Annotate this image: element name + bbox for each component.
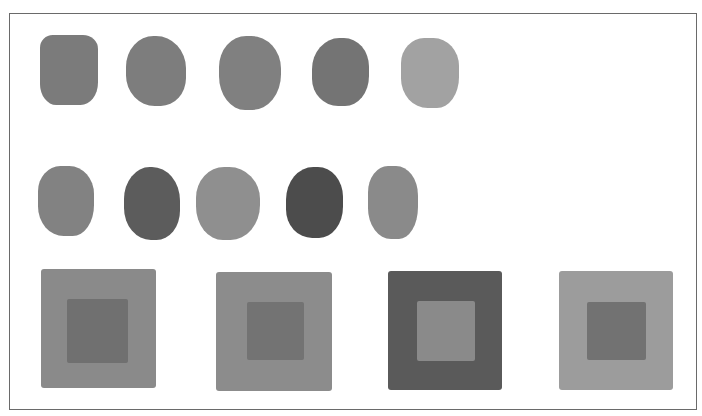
row2-swatch-2 bbox=[124, 167, 180, 240]
row2-swatch-4 bbox=[286, 167, 343, 238]
row2-swatch-3 bbox=[196, 167, 260, 240]
row1-swatch-2 bbox=[126, 36, 186, 106]
row2-swatch-5 bbox=[368, 166, 418, 239]
row2-swatch-1 bbox=[38, 166, 94, 236]
square-study-inner-1 bbox=[67, 299, 128, 363]
row1-swatch-4 bbox=[312, 38, 369, 106]
square-study-inner-4 bbox=[587, 302, 646, 360]
row1-swatch-3 bbox=[219, 36, 281, 110]
row1-swatch-1 bbox=[40, 35, 98, 105]
square-study-inner-3 bbox=[417, 301, 475, 361]
square-study-inner-2 bbox=[247, 302, 304, 360]
row1-swatch-5 bbox=[401, 38, 459, 108]
